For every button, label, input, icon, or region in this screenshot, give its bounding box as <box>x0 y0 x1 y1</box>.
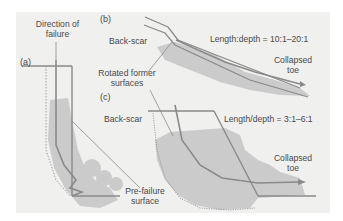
ratio-b-label: Length:depth = 10:1–20:1 <box>210 34 308 44</box>
collapsed-toe-b-label: Collapsed toe <box>268 55 318 75</box>
panel-label-c: (c) <box>100 92 111 102</box>
direction-of-failure-label: Direction of failure <box>30 19 85 39</box>
panel-label-a: (a) <box>20 57 31 67</box>
collapsed-toe-c-label: Collapsed toe <box>268 153 318 173</box>
rotated-former-surfaces-label: Rotated former surfaces <box>90 68 164 88</box>
panel-label-b: (b) <box>100 14 111 24</box>
back-scar-b-label: Back-scar <box>109 36 147 46</box>
pre-failure-surface-label: Pre-failure surface <box>115 186 175 206</box>
back-scar-c-label: Back-scar <box>104 114 142 124</box>
ratio-c-label: Length/depth = 3:1–6:1 <box>224 114 313 124</box>
panel-a-graphic <box>22 42 140 208</box>
